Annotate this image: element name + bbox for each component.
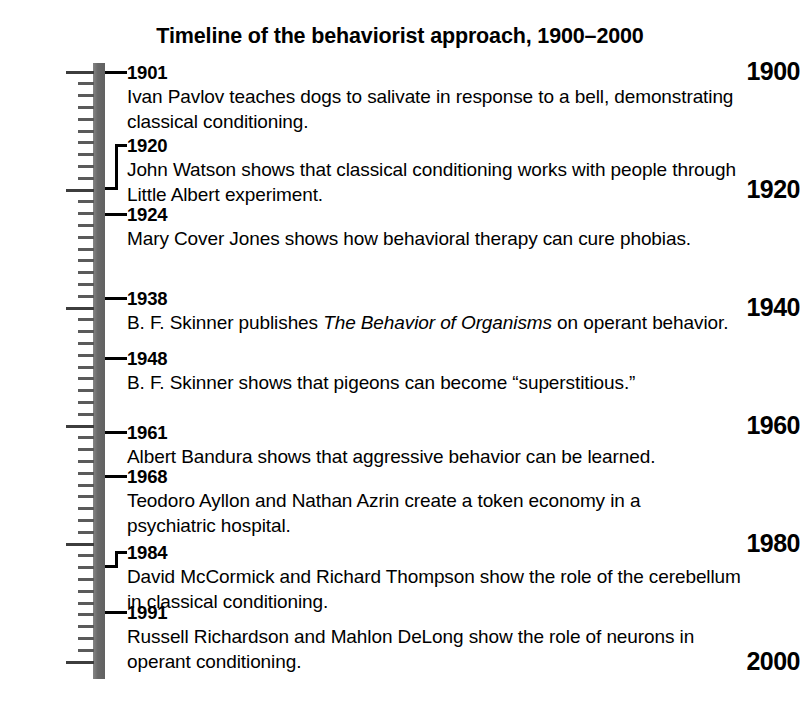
axis-tick-minor xyxy=(78,554,94,557)
axis-tick-minor xyxy=(78,330,94,333)
connector-segment xyxy=(115,144,127,147)
axis-tick-minor xyxy=(78,224,94,227)
axis-tick-minor xyxy=(78,625,94,628)
event-description: Teodoro Ayllon and Nathan Azrin create a… xyxy=(127,488,787,538)
axis-tick-minor xyxy=(78,519,94,522)
event-description-line: Teodoro Ayllon and Nathan Azrin create a… xyxy=(127,488,787,513)
event-description-line: Ivan Pavlov teaches dogs to salivate in … xyxy=(127,84,787,109)
axis-tick-minor xyxy=(78,200,94,203)
axis-tick-minor xyxy=(78,637,94,640)
axis-tick-major xyxy=(66,425,94,428)
event-description-line: Mary Cover Jones shows how behavioral th… xyxy=(127,226,787,251)
axis-tick-minor xyxy=(78,448,94,451)
axis-tick-minor xyxy=(78,377,94,380)
timeline-event: 1920John Watson shows that classical con… xyxy=(127,136,787,207)
axis-tick-major xyxy=(66,661,94,664)
axis-tick-major xyxy=(66,189,94,192)
timeline-event: 1961Albert Bandura shows that aggressive… xyxy=(127,423,787,469)
event-description-line: Little Albert experiment. xyxy=(127,182,787,207)
axis-tick-minor xyxy=(78,389,94,392)
event-description: John Watson shows that classical conditi… xyxy=(127,157,787,207)
event-year: 1924 xyxy=(127,205,787,225)
timeline-axis-bar xyxy=(93,63,105,679)
axis-tick-minor xyxy=(78,165,94,168)
axis-tick-minor xyxy=(78,259,94,262)
axis-tick-minor xyxy=(78,295,94,298)
axis-tick-minor xyxy=(78,578,94,581)
axis-tick-minor xyxy=(78,366,94,369)
event-year: 1984 xyxy=(127,543,787,563)
event-description-line: operant conditioning. xyxy=(127,649,787,674)
timeline-event: 1991Russell Richardson and Mahlon DeLong… xyxy=(127,603,787,674)
axis-tick-major xyxy=(66,543,94,546)
axis-tick-minor xyxy=(78,82,94,85)
axis-tick-minor xyxy=(78,413,94,416)
axis-tick-minor xyxy=(78,177,94,180)
timeline-event: 1968Teodoro Ayllon and Nathan Azrin crea… xyxy=(127,467,787,538)
connector-segment xyxy=(115,144,118,190)
timeline-event: 1901Ivan Pavlov teaches dogs to salivate… xyxy=(127,63,787,134)
axis-tick-minor xyxy=(78,236,94,239)
axis-tick-minor xyxy=(78,130,94,133)
event-year: 1948 xyxy=(127,349,787,369)
event-connector-line xyxy=(105,431,127,434)
axis-tick-minor xyxy=(78,106,94,109)
event-year: 1920 xyxy=(127,136,787,156)
event-description: B. F. Skinner shows that pigeons can bec… xyxy=(127,370,787,395)
event-description: Russell Richardson and Mahlon DeLong sho… xyxy=(127,624,787,674)
axis-tick-minor xyxy=(78,318,94,321)
axis-tick-minor xyxy=(78,118,94,121)
axis-tick-minor xyxy=(78,401,94,404)
event-year: 1901 xyxy=(127,63,787,83)
timeline-event: 1948B. F. Skinner shows that pigeons can… xyxy=(127,349,787,395)
axis-tick-minor xyxy=(78,283,94,286)
event-description-line: Russell Richardson and Mahlon DeLong sho… xyxy=(127,624,787,649)
axis-tick-major xyxy=(66,307,94,310)
timeline-figure: Timeline of the behaviorist approach, 19… xyxy=(0,0,800,713)
event-description-line: Albert Bandura shows that aggressive beh… xyxy=(127,444,787,469)
event-connector-line xyxy=(105,71,127,74)
event-description: B. F. Skinner publishes The Behavior of … xyxy=(127,310,787,335)
event-connector-line xyxy=(105,611,127,614)
book-title: The Behavior of Organisms xyxy=(323,312,552,333)
axis-tick-minor xyxy=(78,342,94,345)
timeline-event: 1924Mary Cover Jones shows how behaviora… xyxy=(127,205,787,251)
axis-tick-minor xyxy=(78,94,94,97)
event-connector-line xyxy=(105,213,127,216)
axis-tick-minor xyxy=(78,602,94,605)
axis-tick-minor xyxy=(78,566,94,569)
event-description-line: classical conditioning. xyxy=(127,109,787,134)
event-description-line: B. F. Skinner shows that pigeons can bec… xyxy=(127,370,787,395)
event-year: 1968 xyxy=(127,467,787,487)
event-description-line: David McCormick and Richard Thompson sho… xyxy=(127,564,787,589)
event-connector-bracket xyxy=(105,551,127,568)
event-year: 1991 xyxy=(127,603,787,623)
axis-tick-minor xyxy=(78,354,94,357)
event-description: Ivan Pavlov teaches dogs to salivate in … xyxy=(127,84,787,134)
event-connector-line xyxy=(105,475,127,478)
axis-tick-minor xyxy=(78,436,94,439)
event-year: 1938 xyxy=(127,289,787,309)
axis-tick-major xyxy=(66,71,94,74)
axis-tick-minor xyxy=(78,649,94,652)
event-description-line: psychiatric hospital. xyxy=(127,513,787,538)
event-description: Albert Bandura shows that aggressive beh… xyxy=(127,444,787,469)
page-title: Timeline of the behaviorist approach, 19… xyxy=(0,24,800,49)
axis-tick-minor xyxy=(78,212,94,215)
axis-tick-minor xyxy=(78,495,94,498)
connector-segment xyxy=(115,551,127,554)
timeline-event: 1938B. F. Skinner publishes The Behavior… xyxy=(127,289,787,335)
axis-tick-minor xyxy=(78,507,94,510)
event-connector-bracket xyxy=(105,144,127,190)
axis-tick-minor xyxy=(78,141,94,144)
event-connector-line xyxy=(105,357,127,360)
event-description-line: John Watson shows that classical conditi… xyxy=(127,157,787,182)
axis-tick-minor xyxy=(78,531,94,534)
axis-tick-minor xyxy=(78,590,94,593)
axis-tick-minor xyxy=(78,613,94,616)
axis-tick-minor xyxy=(78,153,94,156)
event-connector-line xyxy=(105,297,127,300)
event-year: 1961 xyxy=(127,423,787,443)
axis-tick-minor xyxy=(78,271,94,274)
axis-tick-minor xyxy=(78,460,94,463)
